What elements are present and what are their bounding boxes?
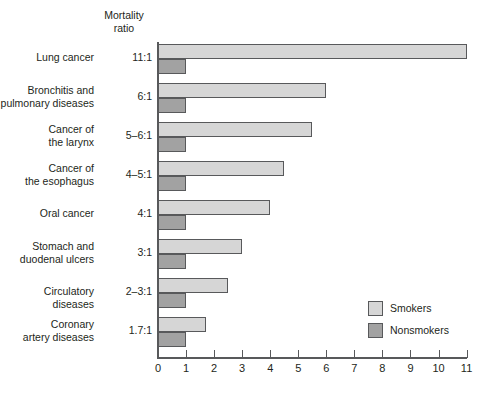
- x-axis-tick: [242, 350, 243, 358]
- x-axis-tick: [158, 350, 159, 358]
- x-axis-tick-label: 3: [230, 362, 254, 374]
- category-label-line1: Stomach and: [0, 240, 94, 253]
- x-axis-tick-label: 11: [455, 362, 479, 374]
- bar-smokers: [158, 239, 242, 254]
- x-axis-tick: [354, 350, 355, 358]
- bar-smokers: [158, 317, 206, 332]
- category-label-line1: Coronary: [0, 318, 94, 331]
- x-axis-tick-label: 4: [258, 362, 282, 374]
- category-label: Lung cancer: [0, 51, 94, 64]
- x-axis-tick: [326, 350, 327, 358]
- category-label-line1: Lung cancer: [0, 51, 94, 64]
- x-axis-tick: [298, 350, 299, 358]
- category-label: Oral cancer: [0, 207, 94, 220]
- bar-nonsmokers: [158, 176, 186, 191]
- category-label-line2: duodenal ulcers: [0, 253, 94, 266]
- x-axis-tick: [186, 350, 187, 358]
- category-label-line1: Cancer of: [0, 123, 94, 136]
- x-axis-tick-label: 8: [370, 362, 394, 374]
- x-axis-tick-label: 5: [286, 362, 310, 374]
- mortality-ratio-value: 2–3:1: [96, 285, 152, 297]
- bar-nonsmokers: [158, 137, 186, 152]
- category-label-line1: Bronchitis and: [0, 84, 94, 97]
- bar-nonsmokers: [158, 59, 186, 74]
- category-label-line1: Circulatory diseases: [0, 285, 94, 310]
- category-label-line2: pulmonary diseases: [0, 97, 94, 110]
- mortality-ratio-value: 1.7:1: [96, 324, 152, 336]
- legend-label: Smokers: [390, 301, 431, 316]
- mortality-ratio-header-line2: ratio: [96, 22, 152, 35]
- category-label: Circulatory diseases: [0, 285, 94, 310]
- mortality-ratio-value: 5–6:1: [96, 129, 152, 141]
- bar-smokers: [158, 83, 326, 98]
- x-axis-tick-label: 10: [427, 362, 451, 374]
- category-label: Cancer ofthe esophagus: [0, 162, 94, 187]
- bar-nonsmokers: [158, 293, 186, 308]
- x-axis-tick-label: 2: [202, 362, 226, 374]
- bar-nonsmokers: [158, 332, 186, 347]
- bar-smokers: [158, 161, 284, 176]
- category-label: Bronchitis andpulmonary diseases: [0, 84, 94, 109]
- x-axis-tick: [410, 350, 411, 358]
- x-axis-tick: [270, 350, 271, 358]
- x-axis-tick-label: 1: [174, 362, 198, 374]
- x-axis-tick-label: 9: [398, 362, 422, 374]
- category-label-line1: Oral cancer: [0, 207, 94, 220]
- mortality-ratio-header: Mortality ratio: [96, 9, 152, 35]
- legend-swatch: [368, 301, 383, 316]
- bar-smokers: [158, 44, 467, 59]
- x-axis-tick: [382, 350, 383, 358]
- x-axis-tick-label: 6: [314, 362, 338, 374]
- category-label: Cancer ofthe larynx: [0, 123, 94, 148]
- bar-nonsmokers: [158, 98, 186, 113]
- category-label-line2: the esophagus: [0, 175, 94, 188]
- category-label-line2: artery diseases: [0, 331, 94, 344]
- category-label-line2: the larynx: [0, 136, 94, 149]
- mortality-ratio-value: 4–5:1: [96, 168, 152, 180]
- bar-smokers: [158, 278, 228, 293]
- mortality-ratio-bar-chart: Mortality ratio 01234567891011 Lung canc…: [0, 0, 494, 401]
- legend-label: Nonsmokers: [390, 323, 449, 338]
- mortality-ratio-value: 4:1: [96, 207, 152, 219]
- category-label: Coronaryartery diseases: [0, 318, 94, 343]
- bar-nonsmokers: [158, 254, 186, 269]
- x-axis-tick: [467, 350, 468, 358]
- mortality-ratio-header-line1: Mortality: [96, 9, 152, 22]
- category-label-line1: Cancer of: [0, 162, 94, 175]
- mortality-ratio-value: 6:1: [96, 90, 152, 102]
- mortality-ratio-value: 11:1: [96, 51, 152, 63]
- bar-smokers: [158, 200, 270, 215]
- mortality-ratio-value: 3:1: [96, 246, 152, 258]
- bar-smokers: [158, 122, 312, 137]
- bar-nonsmokers: [158, 215, 186, 230]
- x-axis-line: [157, 357, 467, 359]
- x-axis-tick: [439, 350, 440, 358]
- x-axis-tick-label: 7: [342, 362, 366, 374]
- legend-swatch: [368, 323, 383, 338]
- x-axis-tick-label: 0: [146, 362, 170, 374]
- category-label: Stomach andduodenal ulcers: [0, 240, 94, 265]
- x-axis-tick: [214, 350, 215, 358]
